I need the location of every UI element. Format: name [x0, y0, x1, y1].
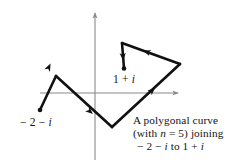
figure-container: − 2 − i 1 + i A polygonal curve (with n …	[0, 0, 245, 168]
segment-2	[56, 76, 112, 127]
figure-caption: A polygonal curve (with n = 5) joining −…	[133, 114, 245, 154]
caption-line-1: A polygonal curve	[133, 114, 245, 127]
start-point-dot	[38, 108, 43, 113]
end-point-label: 1 + i	[113, 73, 135, 86]
caption-line-2: (with n = 5) joining	[133, 127, 245, 140]
start-point-label: − 2 − i	[20, 116, 52, 129]
segment-4	[122, 43, 180, 64]
caption-line-3: − 2 − i to 1 + i	[133, 140, 245, 153]
end-point-dot	[122, 66, 127, 71]
direction-arrow-1	[44, 62, 53, 72]
